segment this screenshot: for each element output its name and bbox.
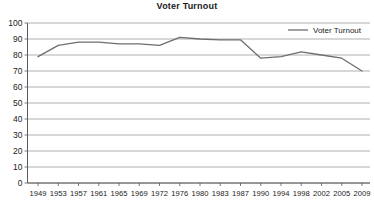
chart-container: Voter Turnout 0102030405060708090100 194… xyxy=(0,0,374,205)
y-tick-label: 90 xyxy=(13,34,23,44)
x-tick-label: 1990 xyxy=(252,189,269,198)
x-tick-label: 2009 xyxy=(354,189,371,198)
x-tick-label: 1969 xyxy=(131,189,148,198)
x-tick-label: 1957 xyxy=(70,189,87,198)
y-tick-label: 30 xyxy=(13,130,23,140)
y-tick-label: 40 xyxy=(13,114,23,124)
legend-label: Voter Turnout xyxy=(313,26,362,35)
x-tick-label: 1949 xyxy=(30,189,47,198)
y-tick-label: 80 xyxy=(13,50,23,60)
x-tick-label: 1961 xyxy=(90,189,107,198)
x-tick-label: 1998 xyxy=(293,189,310,198)
x-tick-label: 1972 xyxy=(151,189,168,198)
y-tick-label: 70 xyxy=(13,66,23,76)
x-tick-label: 1994 xyxy=(273,189,290,198)
x-tick-label: 1983 xyxy=(212,189,229,198)
y-tick-label: 50 xyxy=(13,98,23,108)
x-tick-label: 2002 xyxy=(313,189,330,198)
y-tick-label: 10 xyxy=(13,162,23,172)
y-tick-label: 100 xyxy=(8,18,22,28)
x-tick-label: 1953 xyxy=(50,189,67,198)
data-series-group xyxy=(38,37,362,71)
y-axis-ticks-group: 0102030405060708090100 xyxy=(8,18,27,188)
chart-legend: Voter Turnout xyxy=(288,26,362,35)
y-tick-label: 20 xyxy=(13,146,23,156)
x-tick-label: 1987 xyxy=(232,189,249,198)
x-tick-label: 1980 xyxy=(192,189,209,198)
gridlines-group xyxy=(28,23,371,183)
x-tick-label: 1965 xyxy=(111,189,128,198)
x-tick-label: 1976 xyxy=(171,189,188,198)
x-tick-label: 2005 xyxy=(333,189,350,198)
x-axis-ticks-group: 1949195319571961196519691972197619801983… xyxy=(30,183,371,198)
y-tick-label: 60 xyxy=(13,82,23,92)
series-line-voter-turnout xyxy=(38,37,362,71)
chart-plot-area: 0102030405060708090100 19491953195719611… xyxy=(0,0,374,205)
y-tick-label: 0 xyxy=(18,178,23,188)
